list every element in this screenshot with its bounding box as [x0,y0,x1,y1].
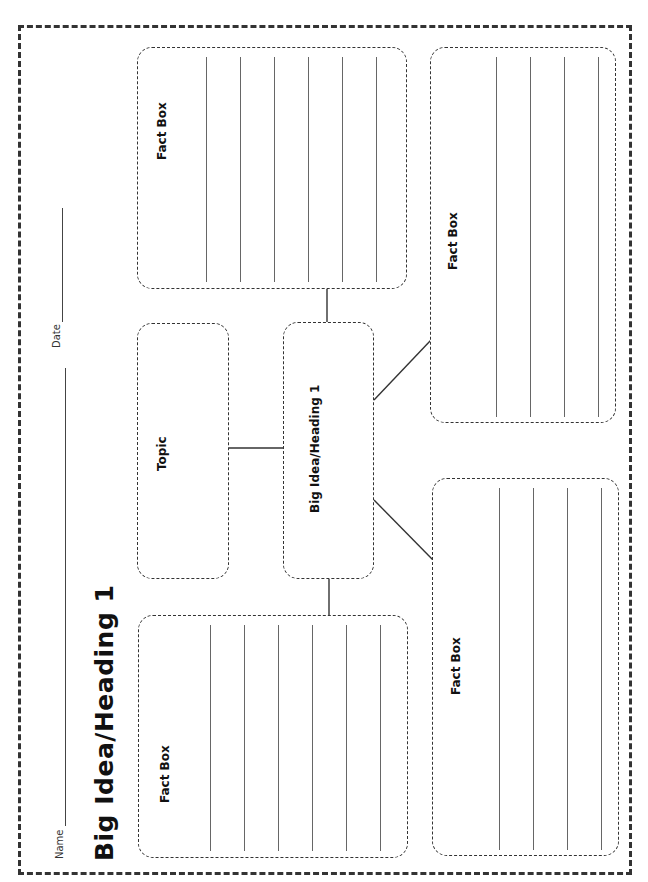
big-idea-box[interactable]: Big Idea/Heading 1 [283,322,374,579]
writing-line [530,57,531,417]
topic-label: Topic [155,436,169,471]
writing-line [564,57,565,417]
writing-line [312,625,313,851]
fact-box-label: Fact Box [155,102,169,160]
writing-line [244,625,245,851]
writing-line [598,57,599,417]
fact-box-label: Fact Box [446,212,460,270]
writing-line [274,57,275,282]
writing-line [376,57,377,282]
topic-box[interactable]: Topic [137,323,229,579]
fact-box-bottom-left[interactable]: Fact Box [138,615,408,858]
writing-line [342,57,343,282]
writing-line [278,625,279,851]
writing-line [533,488,534,850]
fact-box-top-left[interactable]: Fact Box [137,47,407,289]
writing-line [346,625,347,851]
writing-line [496,57,497,417]
writing-line [499,488,500,850]
writing-line [601,488,602,850]
fact-box-top-right[interactable]: Fact Box [430,47,616,423]
writing-line [308,57,309,282]
fact-box-bottom-right[interactable]: Fact Box [432,478,619,856]
writing-line [240,57,241,282]
writing-line [567,488,568,850]
big-idea-label: Big Idea/Heading 1 [308,385,322,513]
fact-box-label: Fact Box [449,637,463,695]
writing-line [380,625,381,851]
writing-line [206,57,207,282]
fact-box-label: Fact Box [158,745,172,803]
writing-line [210,625,211,851]
